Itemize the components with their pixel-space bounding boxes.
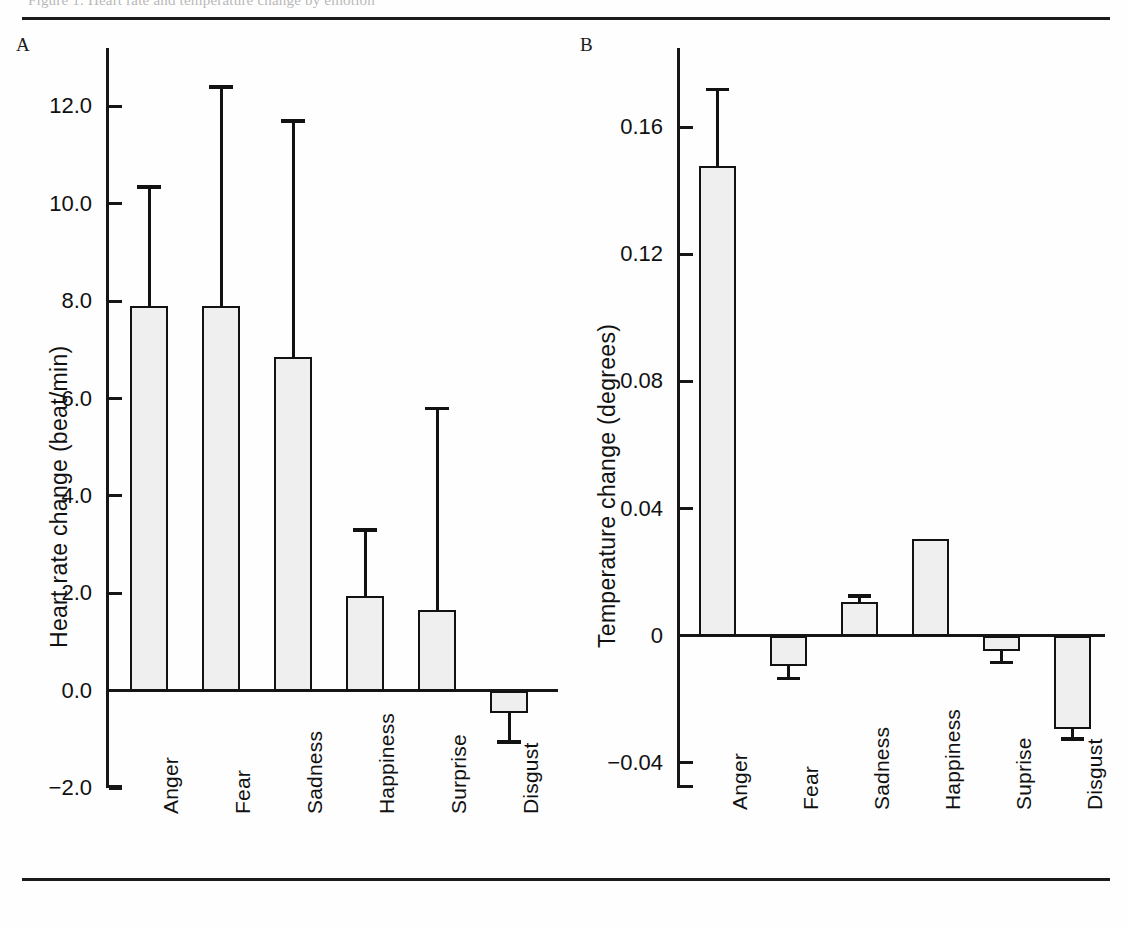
panel-b-axis-top-cap: [677, 48, 680, 51]
y-axis-tick-label: 0.04: [620, 496, 663, 522]
error-bar-cap: [209, 85, 233, 89]
error-bar-cap: [848, 594, 871, 598]
error-bar-cap: [497, 740, 521, 744]
y-axis-tick-label: 0: [651, 623, 663, 649]
y-axis-tick-label: −2.0: [49, 775, 92, 801]
y-axis-tick-label: 8.0: [61, 288, 92, 314]
error-bar-line: [716, 89, 719, 165]
figure-container: Figure 1. Heart rate and temperature cha…: [0, 0, 1127, 930]
panel-a: A Heart rate change (beat/min) 12.010.08…: [6, 28, 576, 888]
error-bar-line: [292, 121, 295, 357]
panel-a-y-axis-spine: [106, 48, 109, 788]
y-axis-tick-label: 0.08: [620, 368, 663, 394]
panel-b-letter: B: [580, 34, 593, 56]
error-bar-cap: [990, 661, 1013, 665]
x-axis-category-label: Anger: [159, 757, 183, 814]
error-bar-line: [148, 187, 151, 306]
panel-b-y-axis-spine: [677, 48, 680, 788]
y-axis-tick: [680, 126, 693, 129]
y-axis-tick: [680, 761, 693, 764]
error-bar-cap: [1061, 737, 1084, 741]
figure-top-rule: [22, 17, 1110, 20]
panel-b-y-axis-title: Temperature change (degrees): [594, 324, 621, 648]
y-axis-tick-label: −0.04: [607, 750, 663, 776]
x-axis-category-label: Surprise: [447, 734, 471, 814]
error-bar-line: [436, 408, 439, 610]
error-bar-cap: [706, 88, 729, 92]
y-axis-tick-label: 4.0: [61, 483, 92, 509]
bar: [274, 357, 312, 690]
bar: [841, 602, 878, 635]
bar: [770, 636, 807, 666]
y-axis-tick: [109, 494, 122, 497]
y-axis-tick-label: 2.0: [61, 580, 92, 606]
x-axis-category-label: Sadness: [303, 731, 327, 814]
bar: [202, 306, 240, 691]
bar: [346, 596, 384, 691]
y-axis-tick: [680, 253, 693, 256]
y-axis-tick: [109, 397, 122, 400]
bar: [1054, 636, 1091, 730]
x-axis-category-label: Happiness: [375, 713, 399, 814]
y-axis-tick: [109, 300, 122, 303]
y-axis-tick-label: 0.0: [61, 678, 92, 704]
panel-b: B Temperature change (degrees) 0.160.120…: [572, 28, 1124, 888]
x-axis-category-label: Anger: [728, 753, 752, 810]
y-axis-tick: [109, 202, 122, 205]
bar: [699, 166, 736, 636]
x-axis-category-label: Happiness: [941, 709, 965, 810]
x-axis-category-label: Fear: [231, 770, 255, 814]
panel-a-axis-top-cap: [106, 48, 109, 51]
error-bar-line: [364, 530, 367, 596]
error-bar-line: [508, 713, 511, 742]
error-bar-cap: [777, 677, 800, 681]
x-axis-category-label: Suprise: [1012, 737, 1036, 810]
y-axis-tick-label: 0.16: [620, 114, 663, 140]
y-axis-tick: [680, 380, 693, 383]
error-bar-cap: [281, 119, 305, 123]
y-axis-tick: [109, 787, 122, 790]
error-bar-cap: [425, 407, 449, 411]
x-axis-category-label: Disgust: [1083, 739, 1107, 810]
y-axis-tick: [109, 105, 122, 108]
panel-a-letter: A: [16, 34, 30, 56]
bar: [130, 306, 168, 691]
error-bar-cap: [353, 528, 377, 532]
panel-a-plot-area: 12.010.08.06.04.02.00.0−2.0AngerFearSadn…: [106, 48, 561, 788]
error-bar-line: [220, 87, 223, 306]
x-axis-category-label: Fear: [799, 766, 823, 810]
x-axis-category-label: Sadness: [870, 727, 894, 810]
y-axis-tick-label: 10.0: [49, 191, 92, 217]
panel-b-axis-bottom-foot: [677, 785, 693, 788]
bar: [418, 610, 456, 690]
zero-baseline: [677, 634, 1105, 637]
panel-b-plot-area: 0.160.120.080.040−0.04AngerFearSadnessHa…: [677, 48, 1107, 788]
y-axis-tick-label: 12.0: [49, 93, 92, 119]
bar: [912, 539, 949, 636]
y-axis-tick: [680, 507, 693, 510]
y-axis-tick-label: 6.0: [61, 386, 92, 412]
figure-caption-sliver: Figure 1. Heart rate and temperature cha…: [28, 0, 1098, 8]
bar: [490, 691, 528, 713]
bar: [983, 636, 1020, 652]
y-axis-tick-label: 0.12: [620, 241, 663, 267]
y-axis-tick: [109, 592, 122, 595]
x-axis-category-label: Disgust: [519, 743, 543, 814]
error-bar-cap: [137, 185, 161, 189]
